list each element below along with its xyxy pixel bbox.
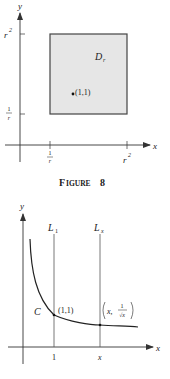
svg-text:8: 8	[100, 177, 105, 188]
svg-text:D: D	[94, 51, 103, 62]
region-D-r	[50, 34, 127, 114]
svg-text:F: F	[59, 177, 65, 188]
svg-text:1: 1	[49, 150, 52, 156]
figure-curve: y x L 1 L x C (1,1) x, 1 √x 1	[8, 201, 160, 364]
point-x-label: x, 1 √x	[103, 302, 133, 319]
figure-8: y x r 2 1 r 1 r r 2 D r (1,1)	[4, 1, 157, 188]
y-tick-label-r-squared: r 2	[4, 27, 12, 40]
y-axis-label: y	[17, 1, 22, 11]
svg-text:L: L	[93, 222, 100, 233]
svg-text:x: x	[100, 228, 104, 234]
x-tick-x: x	[97, 353, 102, 362]
svg-text:2: 2	[128, 152, 131, 158]
x-axis-label: x	[152, 141, 157, 151]
x-tick-label-r-squared: r 2	[123, 152, 131, 165]
figures-canvas: y x r 2 1 r 1 r r 2 D r (1,1)	[0, 0, 170, 379]
svg-text:r: r	[123, 155, 127, 165]
svg-text:r: r	[8, 115, 11, 121]
y-tick-label-1-over-r: 1 r	[6, 106, 12, 121]
svg-text:1: 1	[55, 228, 58, 234]
point-x	[99, 324, 102, 327]
svg-text:IGURE: IGURE	[66, 179, 91, 188]
point-1-1-label: (1,1)	[75, 88, 91, 97]
x-axis-label: x	[155, 343, 160, 353]
point-1-1	[53, 314, 56, 317]
line-Lx-label: L x	[93, 222, 104, 234]
figure-8-caption: F IGURE 8	[59, 177, 105, 188]
svg-text:√x: √x	[119, 312, 125, 318]
y-axis-label: y	[19, 201, 24, 211]
svg-text:1: 1	[8, 106, 11, 112]
svg-text:x,: x,	[106, 307, 113, 316]
x-tick-label-1-over-r: 1 r	[47, 150, 53, 164]
curve-label: C	[34, 306, 41, 317]
line-L1-label: L 1	[47, 222, 58, 234]
point-1-1	[72, 93, 75, 96]
x-tick-1: 1	[52, 353, 56, 362]
svg-text:r: r	[49, 158, 52, 164]
svg-text:L: L	[47, 222, 54, 233]
svg-text:r: r	[4, 30, 8, 40]
svg-text:1: 1	[121, 303, 124, 309]
point-1-1-label: (1,1)	[58, 306, 74, 315]
svg-text:2: 2	[9, 27, 12, 33]
